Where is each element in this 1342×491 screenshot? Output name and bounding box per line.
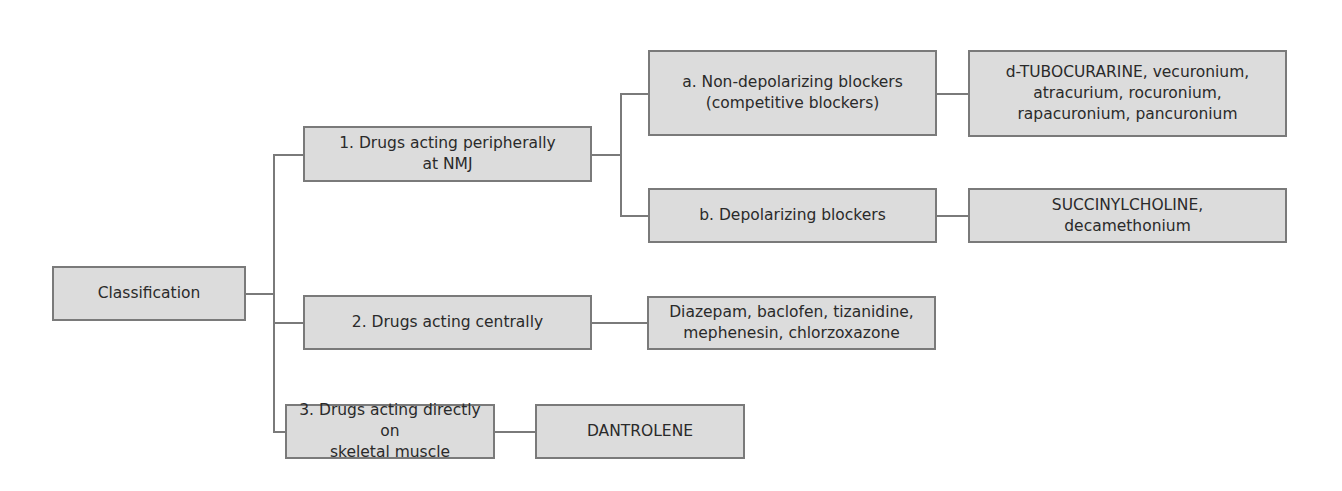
connector-cat3 [273,431,285,433]
category-box-skeletal-muscle: 3. Drugs acting directly on skeletal mus… [285,404,495,459]
drugs-box-non-depolarizing: d-TUBOCURARINE, vecuronium, atracurium, … [968,50,1287,137]
connector-root [246,293,274,295]
drugs-box-skeletal-muscle: DANTROLENE [535,404,745,459]
connector-cat2-drugs [592,322,647,324]
drugs-box-depolarizing: SUCCINYLCHOLINE, decamethonium [968,188,1287,243]
connector-cat1-branch [620,93,622,216]
connector-trunk [273,154,275,432]
connector-sub-a [620,93,648,95]
drugs-box-central: Diazepam, baclofen, tizanidine, mephenes… [647,296,936,350]
connector-cat1-out [592,154,621,156]
connector-cat2 [273,322,303,324]
subcategory-box-depolarizing: b. Depolarizing blockers [648,188,937,243]
connector-a-drugs [937,93,968,95]
category-box-peripheral-nmj: 1. Drugs acting peripherally at NMJ [303,126,592,182]
subcategory-box-non-depolarizing: a. Non-depolarizing blockers (competitiv… [648,50,937,136]
connector-sub-b [620,215,648,217]
connector-cat3-drugs [495,431,535,433]
category-box-central: 2. Drugs acting centrally [303,295,592,350]
connector-cat1 [273,154,303,156]
root-box-classification: Classification [52,266,246,321]
connector-b-drugs [937,215,968,217]
